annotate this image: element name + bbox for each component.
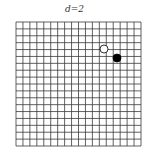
- lattice-grid: [0, 0, 149, 159]
- open-circle-marker: [100, 45, 108, 53]
- filled-circle-marker: [113, 54, 121, 62]
